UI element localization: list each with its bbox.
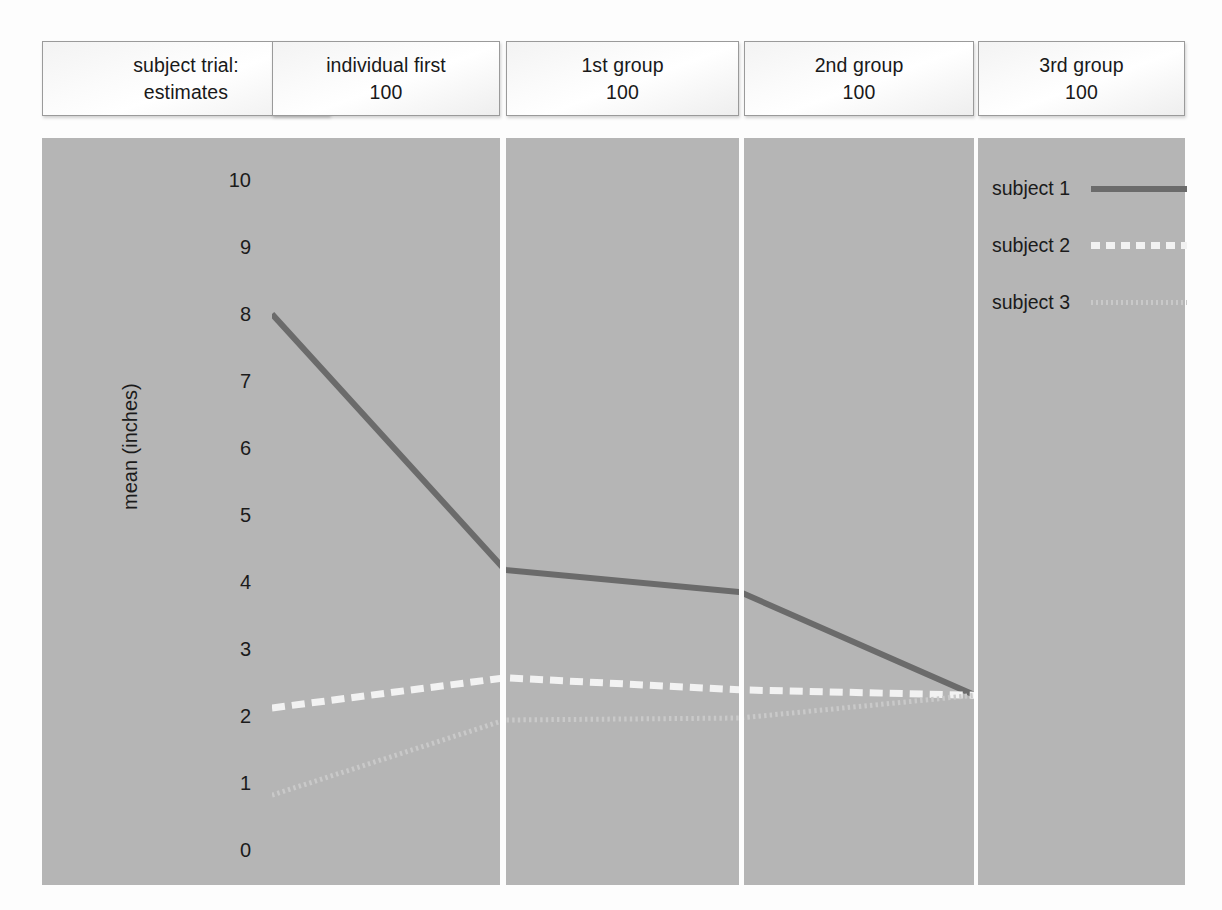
panel-header-line1: individual first: [326, 52, 446, 78]
y-axis-tick-9: 9: [205, 236, 251, 259]
panel-header-line1: subject trial:: [133, 52, 238, 78]
y-axis-tick-6: 6: [205, 437, 251, 460]
chart-legend: subject 1 subject 2 subject 3: [992, 160, 1187, 331]
panel-header-line1: 3rd group: [1039, 52, 1123, 78]
y-axis-tick-10: 10: [205, 169, 251, 192]
y-axis-tick-7: 7: [205, 370, 251, 393]
y-axis-tick-4: 4: [205, 571, 251, 594]
panel-header-line2: estimates: [144, 79, 228, 105]
panel-header-line2: 100: [1065, 79, 1098, 105]
chart-root: subject trial: estimates individual firs…: [0, 0, 1222, 910]
legend-line-dotted-icon: [1091, 300, 1187, 305]
y-axis-tick-5: 5: [205, 504, 251, 527]
y-axis-tick-3: 3: [205, 638, 251, 661]
y-axis-title: mean (inches): [119, 383, 142, 510]
legend-label: subject 2: [992, 234, 1070, 257]
panel-header-line1: 2nd group: [815, 52, 904, 78]
panel-header-line2: 100: [606, 79, 639, 105]
panel-header-2nd-group: 2nd group 100: [744, 41, 974, 116]
legend-item-subject-3[interactable]: subject 3: [992, 274, 1187, 331]
legend-item-subject-1[interactable]: subject 1: [992, 160, 1187, 217]
y-axis-tick-0: 0: [205, 839, 251, 862]
legend-item-subject-2[interactable]: subject 2: [992, 217, 1187, 274]
y-axis-tick-1: 1: [205, 772, 251, 795]
panel-header-row: subject trial: estimates individual firs…: [0, 0, 1222, 125]
panel-header-3rd-group: 3rd group 100: [978, 41, 1185, 116]
panel-header-line2: 100: [843, 79, 876, 105]
legend-label: subject 3: [992, 291, 1070, 314]
panel-header-line2: 100: [370, 79, 403, 105]
y-axis-tick-2: 2: [205, 705, 251, 728]
legend-line-dashed-icon: [1091, 242, 1187, 249]
panel-header-individual-first: individual first 100: [272, 41, 500, 116]
panel-header-line1: 1st group: [581, 52, 663, 78]
plot-panel-individual-first: [272, 138, 500, 885]
legend-line-solid-icon: [1091, 186, 1187, 192]
y-axis-tick-8: 8: [205, 303, 251, 326]
plot-panel-1st-group: [506, 138, 739, 885]
legend-label: subject 1: [992, 177, 1070, 200]
panel-header-1st-group: 1st group 100: [506, 41, 739, 116]
plot-panel-2nd-group: [744, 138, 974, 885]
